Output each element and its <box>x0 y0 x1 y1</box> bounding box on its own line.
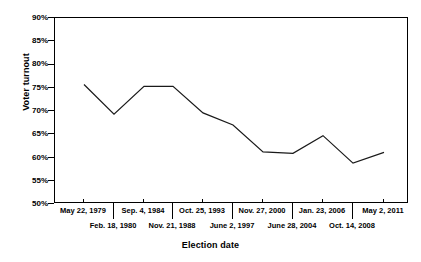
y-tick-label: 70% <box>18 106 48 115</box>
y-tick-label: 90% <box>18 13 48 22</box>
x-axis-tick-labels-row2: Feb. 18, 1980 Nov. 21, 1988 June 2, 1997… <box>0 220 421 234</box>
x-tickmark <box>83 199 84 203</box>
y-tick-label: 65% <box>18 129 48 138</box>
y-tick-label: 60% <box>18 153 48 162</box>
x-tick-label: May 22, 1979 <box>60 205 106 216</box>
x-tick-label: June 2, 1997 <box>210 220 255 231</box>
turnout-line-series <box>55 18 409 204</box>
chart-figure: Voter turnout 90% 85% 80% 75% 70% 65% 60… <box>0 0 421 262</box>
x-axis-title: Election date <box>0 240 421 250</box>
y-tick-label: 75% <box>18 83 48 92</box>
x-tick-label: Oct. 25, 1993 <box>179 205 225 216</box>
x-tick-label: Feb. 18, 1980 <box>90 220 137 231</box>
x-tickmark <box>383 199 384 203</box>
x-tick-label: Nov. 27, 2000 <box>239 205 286 216</box>
y-tick-label: 55% <box>18 176 48 185</box>
x-tickmark <box>202 199 203 203</box>
x-tick-label: May 2, 2011 <box>362 205 403 216</box>
y-tickmark <box>48 203 54 204</box>
x-tick-label: Sep. 4, 1984 <box>122 205 165 216</box>
x-tick-label: June 28, 2004 <box>268 220 317 231</box>
plot-area <box>54 17 408 203</box>
x-axis-tick-labels-row1: May 22, 1979 Sep. 4, 1984 Oct. 25, 1993 … <box>0 205 421 219</box>
x-tick-label: Oct. 14, 2008 <box>329 220 375 231</box>
x-tickmark <box>262 199 263 203</box>
y-tick-label: 85% <box>18 36 48 45</box>
x-tick-label: Nov. 21, 1988 <box>149 220 196 231</box>
x-tick-label: Jan. 23, 2006 <box>299 205 345 216</box>
y-tick-label: 80% <box>18 59 48 68</box>
x-tickmark <box>322 199 323 203</box>
x-tickmark <box>143 199 144 203</box>
